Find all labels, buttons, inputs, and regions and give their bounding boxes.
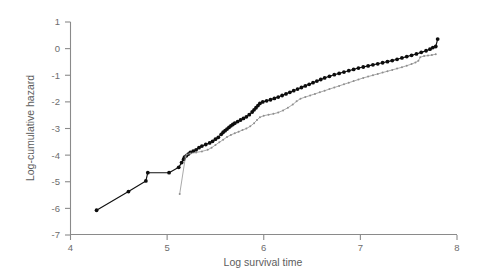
y-tick-label: 1 xyxy=(55,16,60,27)
data-point-marker xyxy=(328,74,332,78)
data-point-marker xyxy=(382,72,384,74)
y-tick-label: -7 xyxy=(52,229,60,240)
data-point-marker xyxy=(218,141,220,143)
data-point-marker xyxy=(424,49,428,53)
data-point-marker xyxy=(406,65,408,67)
x-axis-ticks: 45678 xyxy=(68,235,460,253)
data-point-marker xyxy=(352,67,356,71)
data-point-marker xyxy=(222,139,224,141)
data-point-marker xyxy=(234,132,236,134)
data-point-marker xyxy=(405,55,409,59)
x-tick-label: 5 xyxy=(164,242,169,253)
data-point-marker xyxy=(400,56,404,60)
data-point-marker xyxy=(309,94,311,96)
data-point-marker xyxy=(247,113,251,117)
data-point-marker xyxy=(372,74,374,76)
data-point-marker xyxy=(288,90,292,94)
data-point-marker xyxy=(292,89,296,93)
data-point-marker xyxy=(395,57,399,61)
data-point-marker xyxy=(245,128,247,130)
data-point-marker xyxy=(410,53,414,57)
data-point-marker xyxy=(276,95,280,99)
data-point-marker xyxy=(376,62,380,66)
data-point-marker xyxy=(277,112,279,114)
data-point-marker xyxy=(287,107,289,109)
data-point-marker xyxy=(268,114,270,116)
data-point-marker xyxy=(381,61,385,65)
data-point-marker xyxy=(200,144,204,148)
data-point-marker xyxy=(386,60,390,64)
data-point-marker xyxy=(342,70,346,74)
data-point-marker xyxy=(292,104,294,106)
data-point-marker xyxy=(280,94,284,98)
data-point-marker xyxy=(434,45,438,49)
data-point-marker xyxy=(314,93,316,95)
data-point-marker xyxy=(146,171,150,175)
data-point-marker xyxy=(436,37,440,41)
data-point-marker xyxy=(189,153,191,155)
data-point-marker xyxy=(180,161,184,165)
data-point-marker xyxy=(216,135,220,139)
data-point-marker xyxy=(272,97,276,101)
data-point-marker xyxy=(184,156,186,158)
data-point-marker xyxy=(296,100,298,102)
data-point-marker xyxy=(167,171,171,175)
data-point-marker xyxy=(357,66,361,70)
data-point-marker xyxy=(307,82,311,86)
data-point-marker xyxy=(419,56,421,58)
x-axis-title: Log survival time xyxy=(224,256,303,268)
data-point-marker xyxy=(371,63,375,67)
data-point-marker xyxy=(362,77,364,79)
data-point-marker xyxy=(414,61,416,63)
data-point-marker xyxy=(396,68,398,70)
chart-plot: 10-1-2-3-4-5-6-7 45678 Log survival time… xyxy=(0,0,484,279)
data-point-marker xyxy=(347,69,351,73)
data-point-marker xyxy=(253,122,255,124)
y-tick-label: -2 xyxy=(52,96,60,107)
data-point-marker xyxy=(296,87,300,91)
data-point-marker xyxy=(391,69,393,71)
data-point-marker xyxy=(361,65,365,69)
data-point-marker xyxy=(315,79,319,83)
data-point-marker xyxy=(332,73,336,77)
data-point-marker xyxy=(311,81,315,85)
y-tick-label: -6 xyxy=(52,203,60,214)
data-point-marker xyxy=(324,90,326,92)
x-tick-label: 8 xyxy=(454,242,459,253)
y-tick-label: -5 xyxy=(52,176,60,187)
x-tick-label: 4 xyxy=(68,242,73,253)
data-point-marker xyxy=(241,129,243,131)
data-point-marker xyxy=(367,76,369,78)
data-point-marker xyxy=(226,136,228,138)
series-line-group-1 xyxy=(97,39,438,210)
data-point-marker xyxy=(177,165,181,169)
data-point-marker xyxy=(328,88,330,90)
data-point-marker xyxy=(201,150,203,152)
series-line-group-2 xyxy=(180,54,436,194)
data-point-marker xyxy=(211,147,213,149)
data-point-marker xyxy=(353,80,355,82)
data-point-marker xyxy=(338,85,340,87)
data-point-marker xyxy=(249,125,251,127)
data-point-marker xyxy=(411,63,413,65)
data-point-marker xyxy=(423,55,425,57)
data-point-marker xyxy=(263,115,265,117)
data-point-marker xyxy=(269,98,273,102)
data-point-marker xyxy=(179,193,181,195)
data-series-group xyxy=(95,37,440,212)
y-tick-label: -3 xyxy=(52,123,60,134)
data-point-marker xyxy=(272,113,274,115)
data-point-marker xyxy=(299,98,301,100)
data-point-marker xyxy=(195,151,197,153)
data-point-marker xyxy=(259,116,261,118)
data-point-marker xyxy=(230,134,232,136)
chart-container: 10-1-2-3-4-5-6-7 45678 Log survival time… xyxy=(0,0,484,279)
data-point-marker xyxy=(207,149,209,151)
data-point-marker xyxy=(300,86,304,90)
data-point-marker xyxy=(319,91,321,93)
data-point-marker xyxy=(238,131,240,133)
data-point-marker xyxy=(282,109,284,111)
data-point-marker xyxy=(303,84,307,88)
data-point-marker xyxy=(386,70,388,72)
data-point-marker xyxy=(265,99,269,103)
